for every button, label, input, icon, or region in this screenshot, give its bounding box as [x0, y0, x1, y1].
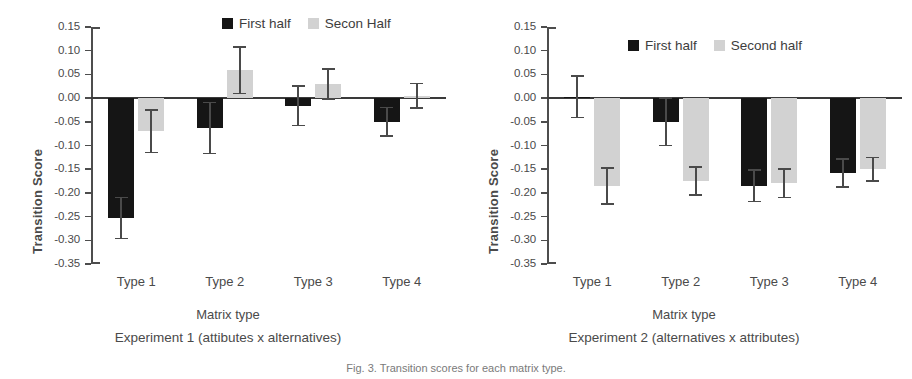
error-cap-upper	[115, 197, 128, 199]
error-bar	[695, 167, 697, 195]
error-cap-upper	[778, 168, 791, 170]
error-cap-lower	[601, 203, 614, 205]
y-tick-label: -0.15	[492, 162, 536, 174]
y-tick-mark	[541, 121, 547, 123]
figure-caption: Fig. 3. Transition scores for each matri…	[0, 362, 912, 374]
error-bar	[150, 110, 152, 153]
legend-label: Second half	[731, 38, 802, 53]
y-tick-label: 0.05	[36, 67, 80, 79]
y-tick-mark	[85, 216, 91, 218]
error-bar	[783, 169, 785, 197]
error-cap-upper	[866, 157, 879, 159]
x-tick-label: Type 4	[813, 274, 903, 289]
y-axis-top-cap	[91, 27, 100, 29]
x-tick-label: Type 3	[268, 274, 358, 289]
x-tick-label: Type 4	[357, 274, 447, 289]
error-cap-upper	[380, 107, 393, 109]
legend-swatch-icon	[628, 40, 639, 51]
chart-legend: First halfSecon Half	[222, 16, 391, 31]
error-cap-lower	[778, 197, 791, 199]
y-axis-bottom-cap	[547, 262, 556, 264]
legend-item-second-half[interactable]: Second half	[714, 38, 802, 53]
y-tick-mark	[85, 26, 91, 28]
x-axis-title: Matrix type	[0, 307, 456, 322]
chart-legend: First halfSecond half	[628, 38, 802, 53]
panel-subtitle: Experiment 2 (alternatives x attributes)	[456, 330, 912, 345]
y-tick-mark	[541, 263, 547, 265]
error-bar	[120, 198, 122, 239]
error-bar	[606, 168, 608, 204]
y-tick-mark	[541, 168, 547, 170]
y-tick-label: -0.35	[492, 257, 536, 269]
error-cap-lower	[571, 117, 584, 119]
error-bar	[416, 83, 418, 108]
y-tick-mark	[541, 216, 547, 218]
legend-swatch-icon	[714, 40, 725, 51]
y-tick-label: 0.05	[492, 67, 536, 79]
y-tick-label: -0.30	[36, 233, 80, 245]
legend-item-first-half[interactable]: First half	[628, 38, 697, 53]
y-tick-label: -0.20	[36, 186, 80, 198]
error-bar	[209, 102, 211, 153]
y-tick-label: -0.05	[492, 115, 536, 127]
legend-swatch-icon	[308, 18, 319, 29]
error-cap-lower	[659, 145, 672, 147]
y-tick-mark	[541, 240, 547, 242]
y-tick-label: 0.15	[36, 20, 80, 32]
y-tick-label: -0.25	[36, 210, 80, 222]
error-cap-upper	[145, 109, 158, 111]
y-tick-mark	[85, 192, 91, 194]
y-tick-label: -0.10	[492, 139, 536, 151]
error-cap-lower	[115, 238, 128, 240]
y-axis-top-cap	[547, 27, 556, 29]
legend-label: First half	[239, 16, 291, 31]
panel-subtitle: Experiment 1 (attibutes x alternatives)	[0, 330, 456, 345]
error-bar	[576, 76, 578, 118]
y-tick-mark	[85, 74, 91, 76]
error-bar	[386, 108, 388, 136]
error-cap-upper	[601, 167, 614, 169]
error-cap-upper	[410, 83, 423, 85]
error-cap-lower	[233, 93, 246, 95]
error-cap-upper	[571, 75, 584, 77]
error-bar	[753, 170, 755, 201]
error-bar	[297, 86, 299, 126]
error-bar	[665, 98, 667, 145]
y-tick-mark	[85, 168, 91, 170]
error-bar	[327, 69, 329, 99]
y-tick-mark	[85, 240, 91, 242]
legend-item-second-half[interactable]: Secon Half	[308, 16, 391, 31]
y-tick-label: -0.15	[36, 162, 80, 174]
y-tick-label: -0.20	[492, 186, 536, 198]
error-cap-upper	[748, 169, 761, 171]
error-cap-lower	[292, 125, 305, 127]
y-tick-label: -0.05	[36, 115, 80, 127]
legend-item-first-half[interactable]: First half	[222, 16, 291, 31]
error-cap-upper	[836, 158, 849, 160]
figure-transition-scores: Transition Score0.150.100.050.00-0.05-0.…	[0, 0, 912, 379]
chart-panel-experiment-1: Transition Score0.150.100.050.00-0.05-0.…	[0, 0, 456, 379]
y-axis-bottom-cap	[91, 262, 100, 264]
x-axis-title: Matrix type	[456, 307, 912, 322]
error-bar	[872, 157, 874, 181]
error-cap-lower	[748, 201, 761, 203]
y-tick-mark	[85, 145, 91, 147]
error-cap-lower	[203, 153, 216, 155]
x-tick-label: Type 1	[91, 274, 181, 289]
y-tick-mark	[85, 263, 91, 265]
error-cap-lower	[145, 152, 158, 154]
legend-label: Secon Half	[325, 16, 391, 31]
error-bar	[842, 159, 844, 187]
error-cap-upper	[322, 68, 335, 70]
legend-label: First half	[645, 38, 697, 53]
y-tick-mark	[541, 192, 547, 194]
y-tick-label: 0.00	[36, 91, 80, 103]
y-tick-label: -0.10	[36, 139, 80, 151]
error-cap-upper	[659, 97, 672, 99]
y-tick-mark	[541, 50, 547, 52]
error-cap-lower	[689, 194, 702, 196]
y-tick-label: -0.30	[492, 233, 536, 245]
chart-panel-experiment-2: Transition Score0.150.100.050.00-0.05-0.…	[456, 0, 912, 379]
y-tick-label: 0.00	[492, 91, 536, 103]
y-tick-label: 0.10	[36, 44, 80, 56]
